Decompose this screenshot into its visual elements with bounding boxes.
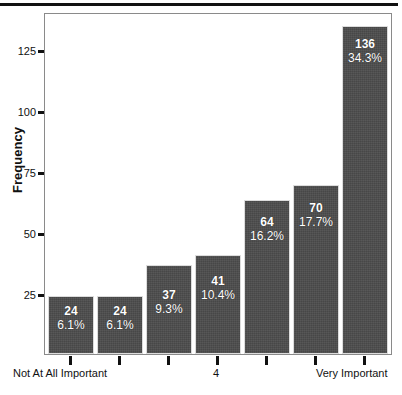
bar-5-percent: 16.2% [245,229,289,243]
x-tick-2 [118,356,121,365]
y-tick-label-125: 125 [8,46,36,57]
plot-frame: 24 6.1% 24 6.1% 37 9.3% [44,13,392,355]
bar-2-labels: 24 6.1% [98,304,142,332]
x-tick-6 [314,356,317,365]
bar-1[interactable]: 24 6.1% [48,296,94,354]
header-rule [0,3,398,6]
x-tick-4 [216,356,219,365]
bar-4-labels: 41 10.4% [196,274,240,302]
bar-7-percent: 34.3% [343,51,387,65]
y-tick-label-25: 25 [8,290,36,301]
bar-1-labels: 24 6.1% [49,304,93,332]
bar-4[interactable]: 41 10.4% [195,255,241,354]
bar-2-count: 24 [98,304,142,318]
bar-6-count: 70 [294,201,338,215]
y-tick-label-75-wrap: 75 [2,168,36,179]
bar-5-count: 64 [245,215,289,229]
bar-2-percent: 6.1% [98,318,142,332]
y-axis-title: Frequency [8,110,28,210]
y-tick-label-125-wrap: 125 [2,46,36,57]
bar-1-percent: 6.1% [49,318,93,332]
x-tick-7 [363,356,366,365]
bar-2[interactable]: 24 6.1% [97,296,143,354]
bar-4-count: 41 [196,274,240,288]
plot-area: 24 6.1% 24 6.1% 37 9.3% [45,14,391,354]
bar-3-percent: 9.3% [147,302,191,316]
y-tick-label-100: 100 [8,107,36,118]
y-tick-label-50: 50 [8,229,36,240]
x-tick-5 [265,356,268,365]
bar-5[interactable]: 64 16.2% [244,200,290,354]
bar-7-count: 136 [343,37,387,51]
x-tick-label-not-at-all-important: Not At All Important [13,367,107,379]
bar-6[interactable]: 70 17.7% [293,185,339,354]
bar-5-labels: 64 16.2% [245,215,289,243]
y-tick-label-25-wrap: 25 [2,290,36,301]
bar-3[interactable]: 37 9.3% [146,265,192,354]
bar-7-labels: 136 34.3% [343,37,387,65]
bar-6-percent: 17.7% [294,215,338,229]
y-tick-label-75: 75 [8,168,36,179]
y-tick-label-100-wrap: 100 [2,107,36,118]
bar-1-count: 24 [49,304,93,318]
x-tick-1 [69,356,72,365]
x-tick-label-very-important: Very Important [316,367,388,379]
bar-6-labels: 70 17.7% [294,201,338,229]
y-tick-label-50-wrap: 50 [2,229,36,240]
bar-4-percent: 10.4% [196,288,240,302]
bar-3-count: 37 [147,288,191,302]
x-tick-label-4: 4 [213,367,219,379]
x-tick-3 [167,356,170,365]
bar-3-labels: 37 9.3% [147,288,191,316]
bar-7[interactable]: 136 34.3% [342,26,388,354]
bar-chart-figure: Frequency 125 100 75 50 25 24 [0,0,402,395]
